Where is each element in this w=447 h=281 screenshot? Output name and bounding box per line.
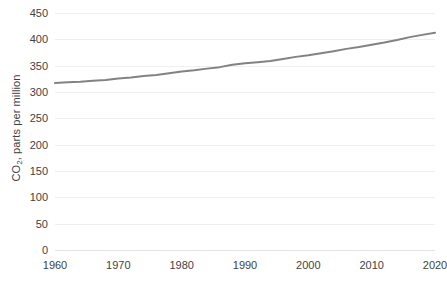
x-tick-label: 2010 [359, 260, 383, 271]
x-tick-label: 1990 [233, 260, 257, 271]
co2-line-chart: CO2, parts per million 45040035030025020… [0, 0, 447, 281]
x-tick-label: 1970 [106, 260, 130, 271]
x-axis-tick-labels: 1960197019801990200020102020 [0, 0, 447, 281]
x-tick-label: 1960 [43, 260, 67, 271]
x-tick-label: 1980 [169, 260, 193, 271]
x-tick-label: 2020 [423, 260, 447, 271]
x-tick-label: 2000 [296, 260, 320, 271]
